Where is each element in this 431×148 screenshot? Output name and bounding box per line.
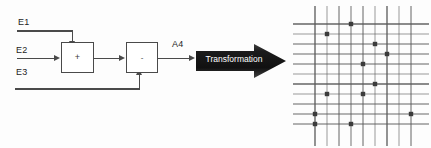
input-label-e1: E1 (18, 17, 29, 27)
arrowhead-e2-into-sum (54, 55, 60, 61)
grid-data-point (361, 62, 365, 66)
wire-output-a4 (158, 58, 191, 60)
arrowhead-output-a4 (189, 55, 195, 61)
grid-data-point (349, 122, 353, 126)
grid-data-point (325, 92, 329, 96)
grid-data-point (313, 122, 317, 126)
sum-block-symbol: + (75, 53, 80, 62)
screenshot-root: E1 E2 E3 + - A4 (0, 0, 431, 148)
grid-data-point (409, 112, 413, 116)
grid-scatter-panel (293, 6, 429, 146)
input-label-e3: E3 (16, 67, 27, 77)
difference-block[interactable]: - (126, 42, 158, 73)
grid-data-point (313, 112, 317, 116)
sum-block[interactable]: + (61, 42, 94, 73)
wire-e1-horizontal (17, 30, 73, 32)
output-label-a4: A4 (172, 39, 183, 49)
wire-e3-horizontal (15, 88, 140, 90)
transformation-block-arrow[interactable]: Transformation (196, 44, 286, 78)
grid-data-point (373, 82, 377, 86)
grid-data-point (349, 22, 353, 26)
grid-data-point (361, 92, 365, 96)
block-diagram: E1 E2 E3 + - A4 (0, 0, 215, 148)
grid-data-point (385, 52, 389, 56)
wire-e3-vertical (139, 74, 141, 88)
transformation-label: Transformation (204, 54, 264, 64)
grid-data-point (325, 32, 329, 36)
grid-scatter-svg (293, 6, 429, 146)
wire-e2-horizontal (17, 58, 56, 60)
grid-data-point (373, 42, 377, 46)
arrowhead-into-difference (119, 55, 125, 61)
wire-sum-to-difference (94, 58, 121, 60)
input-label-e2: E2 (16, 45, 27, 55)
difference-block-symbol: - (141, 54, 144, 62)
